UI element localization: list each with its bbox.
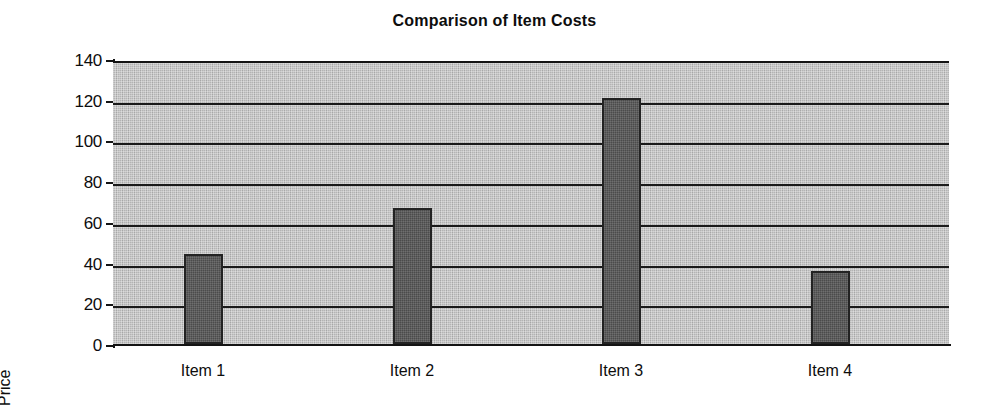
gridline: [113, 266, 949, 268]
x-axis-line: [113, 344, 951, 346]
bar-chart-figure: Comparison of Item Costs 140120100806040…: [0, 0, 989, 406]
y-axis-tick: [106, 141, 113, 143]
gridline: [113, 143, 949, 145]
gridline: [113, 184, 949, 186]
y-axis-tick-label: 100: [30, 133, 102, 150]
x-axis-tick-label: Item 3: [541, 362, 701, 380]
x-axis-tick-label: Item 4: [750, 362, 910, 380]
y-axis-tick: [106, 304, 113, 306]
plot-area: [113, 61, 949, 346]
y-axis-tick-label: 20: [30, 296, 102, 313]
y-axis-tick-labels: 140120100806040200: [24, 0, 102, 406]
y-axis-tick: [106, 264, 113, 266]
y-axis-tick-label: 0: [30, 337, 102, 354]
y-axis-tick: [106, 345, 113, 347]
bar: [184, 254, 223, 344]
y-axis-tick-label: 40: [30, 256, 102, 273]
y-axis-tick-label: 80: [30, 174, 102, 191]
y-axis-tick-label: 120: [30, 93, 102, 110]
y-axis-tick-label: 60: [30, 215, 102, 232]
gridline: [113, 103, 949, 105]
bar: [602, 98, 641, 344]
bar: [393, 208, 432, 344]
x-axis-tick-label: Item 1: [123, 362, 283, 380]
x-axis-tick-label: Item 2: [332, 362, 492, 380]
y-axis-tick: [106, 60, 113, 62]
y-axis-title: Price: [0, 316, 13, 406]
y-axis-tick-label: 140: [30, 52, 102, 69]
chart-title: Comparison of Item Costs: [0, 12, 989, 30]
bar: [811, 271, 850, 344]
y-axis-tick: [106, 182, 113, 184]
gridline: [113, 225, 949, 227]
y-axis-tick: [106, 223, 113, 225]
y-axis-tick: [106, 101, 113, 103]
